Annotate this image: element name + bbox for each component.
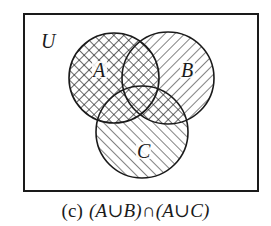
venn-diagram: U A B C [0,0,271,226]
caption-tag: (c) [61,200,83,221]
universe-label: U [41,30,57,52]
set-c-label: C [137,140,151,162]
caption-expression: (A∪B)∩(A∪C) [89,200,210,221]
figure-caption: (c)(A∪B)∩(A∪C) [0,199,271,222]
venn-diagram-figure: U A B C (c)(A∪B)∩(A∪C) [0,0,271,226]
set-a-label: A [91,59,106,81]
set-b-label: B [181,59,193,81]
